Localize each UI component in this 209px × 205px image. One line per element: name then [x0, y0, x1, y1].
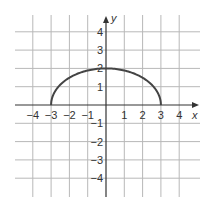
x-tick-label: 3 [158, 109, 164, 121]
grid-lines [15, 15, 200, 197]
x-axis-label: x [191, 109, 198, 121]
x-tick-label: 1 [121, 109, 127, 121]
y-tick-label: −4 [90, 172, 103, 184]
y-tick-label: −1 [90, 117, 103, 129]
x-tick-label: 4 [176, 109, 182, 121]
y-tick-label: −2 [90, 136, 103, 148]
y-axis-arrow-icon [103, 16, 109, 23]
x-axis-arrow-icon [192, 102, 199, 108]
graph-canvas: −4−3−2−112344321−1−2−3−4 x y [0, 0, 209, 205]
y-tick-label: 3 [97, 44, 103, 56]
y-axis-label: y [110, 12, 118, 24]
x-tick-label: −4 [27, 109, 40, 121]
x-tick-label: −2 [63, 109, 76, 121]
x-tick-label: −3 [45, 109, 58, 121]
y-tick-label: 4 [97, 26, 103, 38]
y-tick-label: −3 [90, 154, 103, 166]
y-tick-label: 1 [97, 81, 103, 93]
axes [15, 16, 199, 197]
x-tick-label: 2 [140, 109, 146, 121]
